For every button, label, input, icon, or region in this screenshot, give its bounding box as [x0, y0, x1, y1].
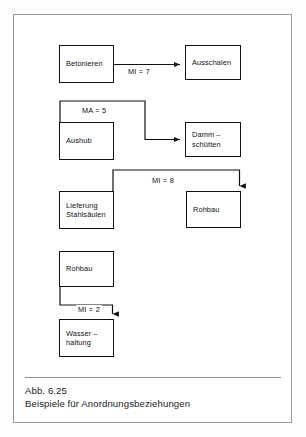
edge-label-ma-5: MA = 5: [80, 106, 108, 115]
edge-label-mi-7: MI = 7: [126, 67, 152, 76]
node-aushub[interactable]: Aushub: [59, 122, 114, 160]
figure-caption: Abb. 6.25 Beispiele für Anordnungsbezieh…: [25, 384, 283, 410]
connector-lieferung-rohbau: [113, 170, 240, 191]
node-lieferung-stahlsaeulen[interactable]: Lieferung Stahlsäulen: [59, 191, 114, 229]
diagram-connectors: [14, 15, 293, 375]
caption-title: Beispiele für Anordnungsbeziehungen: [25, 397, 283, 410]
node-label: Damm – schütten: [192, 130, 221, 149]
edge-label-mi-2: MI = 2: [76, 305, 102, 314]
node-damm-schuetten[interactable]: Damm – schütten: [185, 122, 241, 157]
node-label: Rohbau: [66, 264, 93, 274]
caption-divider: [25, 377, 281, 378]
edge-label-mi-8: MI = 8: [150, 176, 176, 185]
diagram-area: Betonieren Ausschalen Aushub Damm – schü…: [14, 15, 293, 375]
node-label: Lieferung Stahlsäulen: [66, 201, 106, 220]
node-betonieren[interactable]: Betonieren: [59, 45, 114, 83]
node-wasserhaltung[interactable]: Wasser – haltung: [59, 319, 114, 357]
caption-number: Abb. 6.25: [25, 384, 283, 397]
node-label: Wasser – haltung: [66, 329, 98, 348]
node-rohbau-lower[interactable]: Rohbau: [59, 251, 114, 287]
node-label: Betonieren: [66, 59, 103, 69]
figure-frame: Betonieren Ausschalen Aushub Damm – schü…: [13, 14, 292, 423]
node-rohbau-upper[interactable]: Rohbau: [186, 191, 241, 228]
figure-page: Betonieren Ausschalen Aushub Damm – schü…: [0, 0, 306, 437]
node-label: Aushub: [66, 136, 92, 146]
node-ausschalen[interactable]: Ausschalen: [185, 45, 241, 80]
node-label: Ausschalen: [192, 58, 231, 68]
node-label: Rohbau: [193, 205, 220, 215]
